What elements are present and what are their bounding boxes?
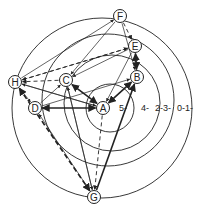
node-label: C bbox=[62, 75, 69, 86]
node-A: A bbox=[97, 102, 110, 115]
edge-H-F bbox=[21, 20, 113, 78]
edge-G-C bbox=[68, 87, 93, 189]
node-label: H bbox=[11, 77, 18, 88]
node-F: F bbox=[114, 10, 127, 23]
edge-E-H bbox=[22, 48, 128, 80]
ring-label: 0-1- bbox=[177, 103, 193, 113]
node-C: C bbox=[60, 74, 73, 87]
edge-E-B bbox=[135, 53, 136, 69]
ring-label: 5- bbox=[119, 103, 127, 113]
node-D: D bbox=[29, 102, 42, 115]
node-label: G bbox=[90, 192, 98, 203]
node-label: E bbox=[132, 41, 139, 52]
edge-C-H bbox=[22, 80, 58, 81]
node-G: G bbox=[88, 191, 101, 204]
ring-label: 2-3- bbox=[155, 103, 171, 113]
ring-labels: 5-4-2-3-0-1- bbox=[119, 103, 193, 113]
edge-E-C bbox=[73, 49, 129, 76]
node-H: H bbox=[9, 76, 22, 89]
edge-C-A bbox=[72, 85, 97, 104]
node-E: E bbox=[129, 40, 142, 53]
node-label: A bbox=[100, 103, 107, 114]
node-B: B bbox=[131, 71, 144, 84]
edge-G-B bbox=[97, 84, 135, 190]
diagram-canvas: ABCDEFGH 5-4-2-3-0-1- bbox=[0, 0, 203, 214]
edge-D-B bbox=[42, 79, 130, 106]
node-label: D bbox=[31, 103, 38, 114]
network-diagram: ABCDEFGH 5-4-2-3-0-1- bbox=[0, 0, 203, 214]
node-label: F bbox=[117, 11, 123, 22]
ring-label: 4- bbox=[141, 103, 149, 113]
node-label: B bbox=[134, 72, 141, 83]
edge-H-D bbox=[20, 88, 31, 102]
